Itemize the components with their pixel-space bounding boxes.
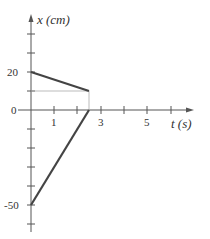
x-tick-label-5: 5 <box>144 116 150 128</box>
segment-1-line <box>31 72 89 91</box>
y-axis-arrow-icon <box>29 14 34 22</box>
y-tick-label-20: 20 <box>7 66 19 78</box>
y-axis-title: x (cm) <box>36 12 70 27</box>
x-axis-arrow-icon <box>186 108 194 113</box>
x-axis-title: t (s) <box>171 116 192 131</box>
position-time-graph: x (cm) t (s) 20 0 -50 1 3 5 <box>0 0 210 239</box>
x-tick-label-1: 1 <box>51 116 57 128</box>
y-tick-label-neg50: -50 <box>4 199 19 211</box>
segment-2-line <box>31 110 89 205</box>
y-tick-label-0: 0 <box>11 104 17 116</box>
x-tick-label-3: 3 <box>98 116 104 128</box>
